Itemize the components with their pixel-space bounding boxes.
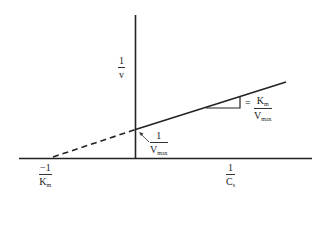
x-intercept-label: −1 Km [39,163,52,188]
x-axis-label-denominator-sub: s [233,182,235,188]
intercept-arrow [141,134,149,142]
slope-denominator-sub: max [261,116,271,122]
y-intercept-denominator-sub: max [157,150,167,156]
x-axis-label-numerator: 1 [227,163,234,174]
x-intercept-denominator: Km [39,175,51,188]
slope-numerator: Km [256,96,270,108]
slope-label: Km Vmax [254,96,272,122]
x-axis-label-denominator: Cs [226,175,235,188]
y-intercept-denominator: Vmax [150,143,168,156]
x-axis-label-denominator-main: C [226,176,233,187]
y-intercept-label: 1 Vmax [150,131,168,156]
x-axis-label: 1 Cs [226,163,235,188]
slope-numerator-main: K [257,95,264,106]
x-intercept-denominator-main: K [39,176,46,187]
y-axis-label-denominator: v [119,68,124,80]
extrapolated-dashed-line [53,130,136,158]
x-intercept-numerator: −1 [39,163,52,174]
x-intercept-denominator-sub: m [47,182,52,188]
y-axis-label: 1 v [118,56,125,80]
y-intercept-numerator: 1 [155,131,162,142]
slope-equals: = [245,97,251,108]
y-axis-label-numerator: 1 [118,56,125,67]
slope-denominator: Vmax [254,109,272,122]
slope-numerator-sub: m [264,101,269,107]
